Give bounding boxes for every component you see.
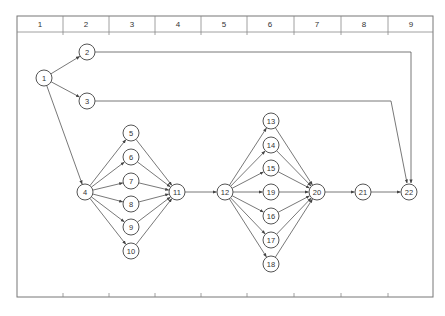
edge-5-to-11 (136, 139, 172, 185)
column-header-3: 3 (130, 20, 135, 29)
node-label: 21 (359, 188, 367, 197)
edge-3-to-22 (95, 101, 407, 183)
edge-1-to-3 (51, 82, 79, 97)
node-14: 14 (263, 137, 279, 153)
node-5: 5 (123, 125, 139, 141)
node-label: 17 (267, 236, 275, 245)
node-label: 12 (221, 188, 229, 197)
edge-1-to-4 (47, 86, 82, 184)
node-11: 11 (169, 184, 185, 200)
node-label: 11 (173, 188, 181, 197)
node-label: 4 (83, 188, 87, 197)
node-20: 20 (309, 184, 325, 200)
node-4: 4 (77, 184, 93, 200)
column-header-7: 7 (315, 20, 320, 29)
node-22: 22 (401, 184, 417, 200)
node-label: 19 (267, 188, 275, 197)
node-label: 14 (267, 141, 275, 150)
node-6: 6 (123, 149, 139, 165)
node-label: 16 (267, 212, 275, 221)
edge-7-to-11 (139, 183, 169, 190)
column-header-2: 2 (84, 20, 89, 29)
node-label: 10 (127, 247, 135, 256)
edge-6-to-11 (137, 162, 170, 187)
node-label: 22 (405, 188, 413, 197)
node-12: 12 (217, 184, 233, 200)
node-label: 13 (267, 117, 275, 126)
node-label: 20 (313, 188, 321, 197)
edge-12-to-13 (229, 128, 266, 185)
node-label: 15 (267, 164, 275, 173)
edge-8-to-11 (139, 194, 169, 202)
node-17: 17 (263, 232, 279, 248)
node-label: 18 (267, 260, 275, 269)
edge-18-to-20 (275, 199, 312, 257)
node-19: 19 (263, 184, 279, 200)
node-13: 13 (263, 113, 279, 129)
node-label: 3 (85, 97, 89, 106)
edge-16-to-20 (278, 196, 309, 212)
column-header-9: 9 (409, 20, 414, 29)
node-label: 8 (129, 200, 133, 209)
edge-1-to-2 (51, 56, 80, 73)
edge-4-to-5 (90, 140, 126, 186)
column-header-5: 5 (222, 20, 227, 29)
node-10: 10 (123, 243, 139, 259)
nodes: 12345678910111213141519161718202122 (36, 44, 417, 272)
edge-4-to-8 (93, 194, 123, 202)
column-header-row: 1 2 3 4 5 6 7 8 9 (38, 20, 414, 29)
node-7: 7 (123, 173, 139, 189)
node-21: 21 (355, 184, 371, 200)
node-15: 15 (263, 160, 279, 176)
edges (47, 52, 411, 257)
node-label: 1 (42, 74, 46, 83)
column-header-6: 6 (268, 20, 273, 29)
node-16: 16 (263, 208, 279, 224)
column-separators (63, 16, 388, 297)
node-3: 3 (79, 93, 95, 109)
edge-10-to-11 (136, 199, 172, 245)
column-header-8: 8 (362, 20, 367, 29)
edge-13-to-20 (275, 128, 312, 185)
node-1: 1 (36, 70, 52, 86)
node-label: 6 (129, 153, 133, 162)
network-diagram: 1 2 3 4 5 6 7 8 9 1234567891011121314151… (0, 0, 445, 316)
node-9: 9 (123, 219, 139, 235)
node-18: 18 (263, 256, 279, 272)
edge-12-to-18 (229, 199, 266, 257)
node-label: 5 (129, 129, 133, 138)
column-header-1: 1 (38, 20, 43, 29)
node-label: 9 (129, 223, 133, 232)
diagram-frame (17, 16, 433, 297)
node-2: 2 (79, 44, 95, 60)
node-8: 8 (123, 196, 139, 212)
column-header-4: 4 (176, 20, 181, 29)
edge-4-to-10 (90, 198, 126, 244)
edge-4-to-7 (93, 183, 123, 190)
node-label: 7 (129, 177, 133, 186)
node-label: 2 (85, 48, 89, 57)
